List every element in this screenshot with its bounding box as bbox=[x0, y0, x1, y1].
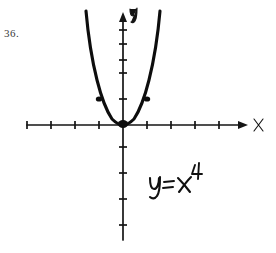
curve-vertex-marker bbox=[118, 120, 128, 128]
curve-point-marker-left bbox=[96, 96, 102, 101]
coordinate-graph bbox=[0, 0, 276, 253]
curve-point-marker-right bbox=[144, 96, 150, 101]
x-axis-label-glyph bbox=[254, 119, 263, 131]
y-axis-arrow-icon bbox=[119, 12, 127, 22]
x-axis-label bbox=[254, 119, 263, 131]
equation-glyph-exponent-4 bbox=[192, 163, 202, 179]
equation-glyph-y bbox=[150, 177, 160, 198]
x-axis-arrow-icon bbox=[238, 121, 248, 129]
equation-annotation bbox=[150, 163, 202, 198]
worksheet-page: 36. bbox=[0, 0, 276, 253]
y-axis-label-glyph bbox=[130, 8, 137, 23]
y-axis-label bbox=[130, 8, 137, 23]
x-axis-group bbox=[27, 121, 248, 129]
equation-glyph-equals bbox=[163, 181, 174, 188]
equation-glyph-x bbox=[178, 177, 191, 192]
